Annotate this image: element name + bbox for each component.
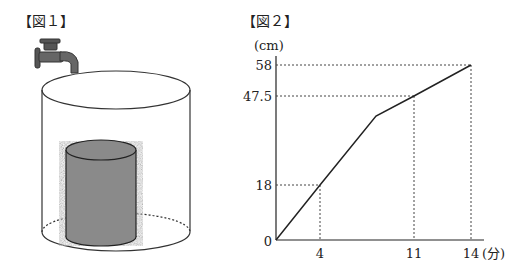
x-tick-11: 11 xyxy=(406,246,423,261)
x-unit-label: (分) xyxy=(482,246,505,261)
x-tick-14: 14 xyxy=(463,246,480,261)
depth-line xyxy=(276,65,471,240)
x-tick-4: 4 xyxy=(316,246,324,261)
y-tick-47-5: 47.5 xyxy=(243,89,272,104)
figure2-line-chart: (cm) 58 47.5 18 0 4 11 14 (分) xyxy=(0,0,531,269)
y-tick-18: 18 xyxy=(255,178,272,193)
y-tick-58: 58 xyxy=(255,58,272,73)
y-unit-label: (cm) xyxy=(254,38,284,53)
guide-lines xyxy=(276,65,471,240)
y-tick-0: 0 xyxy=(264,234,272,249)
